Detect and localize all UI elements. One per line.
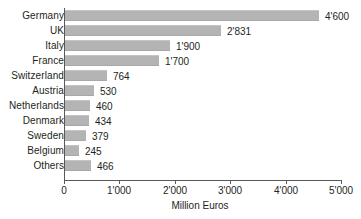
bar-row: Netherlands 460: [0, 98, 361, 113]
bar[interactable]: [65, 130, 86, 141]
bar-row: Sweden 379: [0, 128, 361, 143]
x-axis-tick: [341, 180, 342, 184]
value-label: 1'700: [165, 55, 189, 68]
x-axis-title: Million Euros: [0, 200, 361, 212]
bar-container[interactable]: 4'600: [65, 10, 319, 21]
x-axis-tick-label: 4'000: [274, 185, 298, 197]
bar[interactable]: [65, 25, 221, 36]
bar[interactable]: [65, 100, 90, 111]
x-axis-line: [64, 180, 342, 181]
bar[interactable]: [65, 55, 159, 66]
bar[interactable]: [65, 160, 91, 171]
bar[interactable]: [65, 10, 319, 21]
bar-container[interactable]: 2'831: [65, 25, 221, 36]
value-label: 379: [92, 130, 109, 143]
bar[interactable]: [65, 40, 170, 51]
category-label: Germany: [0, 8, 64, 23]
bar-container[interactable]: 530: [65, 85, 94, 96]
value-label: 460: [96, 100, 113, 113]
value-label: 466: [97, 160, 114, 173]
value-label: 1'900: [176, 40, 200, 53]
category-label: Belgium: [0, 143, 64, 158]
bar-row: UK 2'831: [0, 23, 361, 38]
category-label: Sweden: [0, 128, 64, 143]
x-axis-tick-label: 1'000: [107, 185, 131, 197]
bar-container[interactable]: 379: [65, 130, 86, 141]
bar[interactable]: [65, 85, 94, 96]
value-label: 764: [113, 70, 130, 83]
y-axis-line: [64, 8, 65, 180]
bar-container[interactable]: 434: [65, 115, 89, 126]
value-label: 2'831: [227, 25, 251, 38]
category-label: Netherlands: [0, 98, 64, 113]
bar-container[interactable]: 764: [65, 70, 107, 81]
value-label: 4'600: [325, 10, 349, 23]
bar-row: Belgium 245: [0, 143, 361, 158]
value-label: 530: [100, 85, 117, 98]
category-label: Denmark: [0, 113, 64, 128]
bar-row: Austria 530: [0, 83, 361, 98]
x-axis-tick: [119, 180, 120, 184]
category-label: UK: [0, 23, 64, 38]
bar-row: Switzerland 764: [0, 68, 361, 83]
bar-container[interactable]: 1'700: [65, 55, 159, 66]
bar-container[interactable]: 245: [65, 145, 79, 156]
bar-container[interactable]: 466: [65, 160, 91, 171]
bar-chart: Germany 4'600 UK 2'831 Italy 1'900 Franc…: [0, 0, 361, 219]
value-label: 434: [95, 115, 112, 128]
x-axis-tick: [64, 180, 65, 184]
bar[interactable]: [65, 145, 79, 156]
category-label: Austria: [0, 83, 64, 98]
plot-area: Germany 4'600 UK 2'831 Italy 1'900 Franc…: [0, 0, 361, 219]
bar-container[interactable]: 1'900: [65, 40, 170, 51]
bar-row: Germany 4'600: [0, 8, 361, 23]
category-label: France: [0, 53, 64, 68]
x-axis-tick-label: 0: [61, 185, 67, 197]
category-label: Italy: [0, 38, 64, 53]
category-label: Others: [0, 158, 64, 173]
bar-row: Italy 1'900: [0, 38, 361, 53]
bar-container[interactable]: 460: [65, 100, 90, 111]
bar[interactable]: [65, 115, 89, 126]
bar-row: Others 466: [0, 158, 361, 173]
x-axis-tick: [230, 180, 231, 184]
x-axis-tick-label: 3'000: [218, 185, 242, 197]
x-axis-tick: [286, 180, 287, 184]
x-axis-tick-label: 2'000: [163, 185, 187, 197]
bar-row: France 1'700: [0, 53, 361, 68]
bar-row: Denmark 434: [0, 113, 361, 128]
x-axis-tick-label: 5'000: [329, 185, 353, 197]
x-axis-tick: [175, 180, 176, 184]
x-axis-title-text: Million Euros: [171, 200, 228, 212]
value-label: 245: [85, 145, 102, 158]
bar[interactable]: [65, 70, 107, 81]
category-label: Switzerland: [0, 68, 64, 83]
